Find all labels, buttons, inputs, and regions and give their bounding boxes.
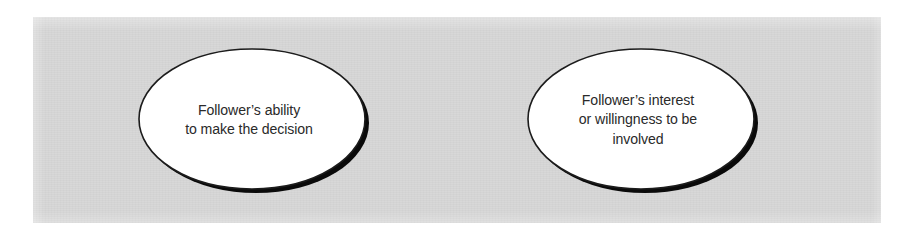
figure-root: Follower’s ability to make the decision … xyxy=(0,0,912,240)
ellipse-follower-ability: Follower’s ability to make the decision xyxy=(130,46,376,202)
ellipse-body xyxy=(528,49,754,189)
ellipse-follower-interest: Follower’s interest or willingness to be… xyxy=(519,46,765,202)
ellipse-shape-follower-interest xyxy=(519,46,765,202)
ellipse-shape-follower-ability xyxy=(130,46,376,202)
ellipse-body xyxy=(139,49,365,189)
